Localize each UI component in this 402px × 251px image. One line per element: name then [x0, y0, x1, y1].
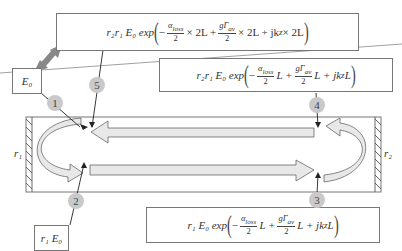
eq5-term2: × 2L + jk	[238, 26, 279, 38]
eq4-loss-fraction: αloss2	[257, 64, 274, 87]
e0-label: E₀	[22, 75, 33, 87]
eq4-alpha-sub: loss	[262, 67, 273, 75]
eq3-term3: L	[328, 219, 334, 231]
right-reflection-arrow	[324, 118, 366, 182]
eq4-gain: gΓ	[296, 63, 305, 73]
eq5-minus: −	[159, 26, 165, 38]
eq5-loss-fraction: αloss2	[167, 21, 184, 44]
eq5-term1: × 2L +	[186, 26, 216, 38]
eq5-lparen: (	[154, 22, 159, 42]
eq4-term2: L + jk	[314, 69, 341, 81]
eq5-gain-fraction: gΓav2	[218, 21, 236, 44]
right-mirror-label: r₂	[384, 147, 392, 159]
left-mirror-label: r₁	[14, 147, 22, 159]
eq5-gain: gΓ	[219, 20, 228, 30]
step-badge-3: 3	[309, 192, 325, 208]
eq5-gain-sub: av	[228, 24, 235, 32]
eq4-den2: 2	[301, 77, 305, 86]
eq3-gain-sub: av	[288, 217, 295, 225]
eq3-rparen: )	[334, 215, 339, 235]
eq3-alpha-sub: loss	[245, 217, 256, 225]
eq3-den1: 2	[247, 227, 251, 236]
eq5-den2: 2	[225, 34, 229, 43]
backward-beam-arrow	[91, 121, 314, 143]
eq3-den2: 2	[284, 227, 288, 236]
eq4-gain-sub: av	[305, 67, 312, 75]
left-reflection-arrow	[37, 118, 83, 182]
forward-beam-arrow	[90, 160, 314, 181]
eq4-prefix: r₂r₁ E₀ exp	[197, 69, 245, 81]
eq5-den1: 2	[174, 34, 178, 43]
eq4-minus: −	[249, 69, 255, 81]
eq3-gain-fraction: gΓav2	[277, 214, 295, 237]
eq4-term1: L +	[276, 69, 292, 81]
eq4-term3: L	[345, 69, 351, 81]
eq4-lparen: (	[244, 65, 249, 85]
step-badge-4: 4	[309, 97, 325, 113]
eq3-prefix: r₁ E₀ exp	[188, 219, 227, 231]
eq5-rparen: )	[304, 22, 309, 42]
eq5-term3: × 2L	[283, 26, 304, 38]
eq4-gain-fraction: gΓav2	[295, 64, 313, 87]
equation-3-box: r₁ E₀ exp ( − αloss2 L + gΓav2 L + jkzL …	[146, 207, 380, 243]
eq4-den1: 2	[264, 77, 268, 86]
step-badge-2: 2	[68, 193, 84, 209]
equation-5-box: r₂r₁ E₀ exp ( − αloss2 × 2L + gΓav2 × 2L…	[56, 13, 359, 51]
step-badge-5: 5	[89, 77, 105, 93]
reflected-field-box: r₁ E₀	[34, 225, 69, 251]
eq3-term1: L +	[259, 219, 275, 231]
step-badge-1: 1	[47, 95, 63, 111]
r1e0-label: r₁ E₀	[41, 232, 62, 244]
input-field-box: E₀	[12, 68, 42, 94]
eq3-gain: gΓ	[278, 213, 287, 223]
eq3-minus: −	[232, 219, 238, 231]
eq5-prefix: r₂r₁ E₀ exp	[107, 26, 155, 38]
eq4-rparen: )	[351, 65, 356, 85]
eq3-loss-fraction: αloss2	[240, 214, 257, 237]
left-mirror-hatch	[26, 117, 32, 192]
eq3-term2: L + jk	[297, 219, 324, 231]
right-mirror-hatch	[375, 117, 381, 192]
eq3-lparen: (	[227, 215, 232, 235]
eq5-alpha-sub: loss	[172, 24, 183, 32]
equation-4-box: r₂r₁ E₀ exp ( − αloss2 L + gΓav2 L + jkz…	[159, 58, 393, 92]
